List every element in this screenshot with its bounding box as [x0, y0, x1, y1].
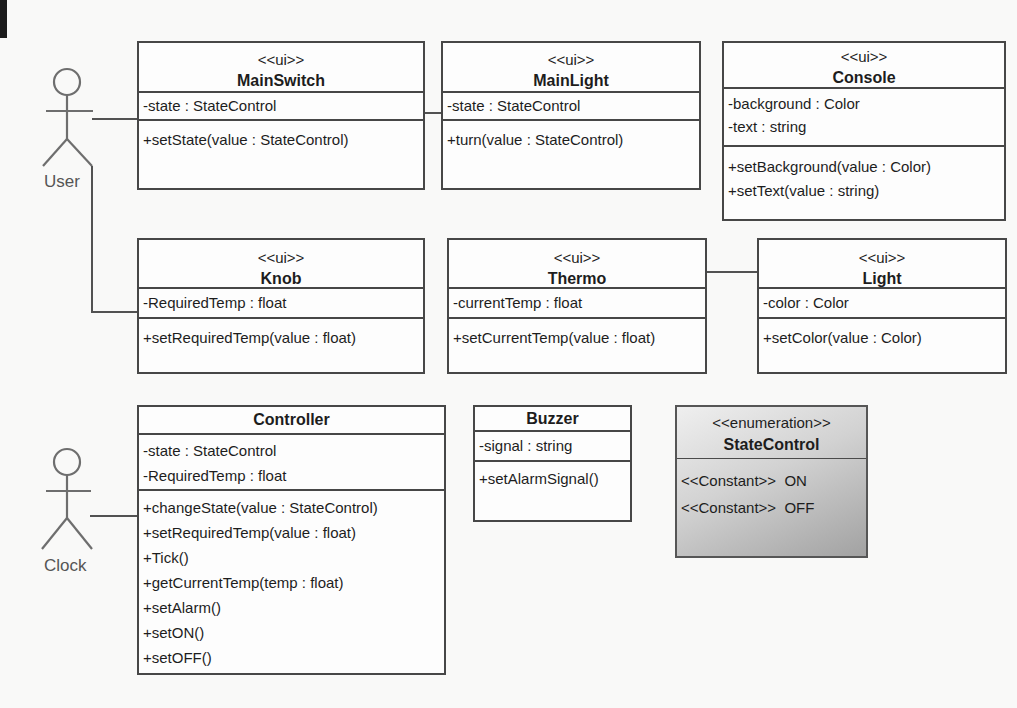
- class-header: <<enumeration>> StateControl: [677, 407, 866, 459]
- stereotype-label: <<ui>>: [443, 49, 699, 70]
- attributes-compartment: -color : Color: [759, 289, 1005, 319]
- class-header: Controller: [139, 407, 444, 435]
- scan-artifact: [0, 0, 7, 38]
- stereotype-label: <<ui>>: [449, 247, 705, 268]
- class-light: <<ui>> Light -color : Color +setColor(va…: [757, 238, 1007, 374]
- class-name: StateControl: [677, 434, 866, 456]
- clock-actor-label: Clock: [44, 556, 87, 576]
- method: +setState(value : StateControl): [139, 127, 423, 153]
- stereotype-label: <<ui>>: [724, 46, 1004, 67]
- attribute: -state : StateControl: [139, 93, 423, 119]
- class-console: <<ui>> Console -background : Color -text…: [722, 41, 1006, 221]
- class-thermo: <<ui>> Thermo -currentTemp : float +setC…: [447, 238, 707, 374]
- methods-compartment: +setColor(value : Color): [759, 319, 1005, 372]
- method: +turn(value : StateControl): [443, 127, 699, 153]
- class-buzzer: Buzzer -signal : string +setAlarmSignal(…: [473, 405, 632, 522]
- class-header: <<ui>> Knob: [139, 240, 423, 289]
- method: +setOFF(): [139, 645, 444, 670]
- attributes-compartment: -state : StateControl: [139, 93, 423, 121]
- methods-compartment: +changeState(value : StateControl) +setR…: [139, 491, 444, 673]
- attributes-compartment: -currentTemp : float: [449, 289, 705, 319]
- method: +setColor(value : Color): [759, 325, 1005, 351]
- methods-compartment: +setState(value : StateControl): [139, 121, 423, 188]
- stereotype-label: <<ui>>: [139, 247, 423, 268]
- attribute: -color : Color: [759, 289, 1005, 317]
- attributes-compartment: -background : Color -text : string: [724, 89, 1004, 147]
- attribute: -RequiredTemp : float: [139, 463, 444, 488]
- stereotype-label: <<enumeration>>: [677, 412, 866, 434]
- methods-compartment: +setCurrentTemp(value : float): [449, 319, 705, 372]
- attributes-compartment: -state : StateControl: [443, 93, 699, 121]
- attribute: -state : StateControl: [443, 93, 699, 119]
- class-name: Controller: [139, 407, 444, 433]
- class-name: Console: [724, 67, 1004, 88]
- class-header: Buzzer: [475, 407, 630, 432]
- attributes-compartment: -state : StateControl -RequiredTemp : fl…: [139, 435, 444, 491]
- constants-compartment: <<Constant>> ON <<Constant>> OFF: [677, 459, 866, 556]
- methods-compartment: +setAlarmSignal(): [475, 462, 630, 520]
- method: +setBackground(value : Color): [724, 155, 1004, 179]
- class-knob: <<ui>> Knob -RequiredTemp : float +setRe…: [137, 238, 425, 374]
- attribute: -state : StateControl: [139, 438, 444, 463]
- class-header: <<ui>> Light: [759, 240, 1005, 289]
- enumeration-statecontrol: <<enumeration>> StateControl <<Constant>…: [675, 405, 868, 558]
- class-name: Knob: [139, 268, 423, 289]
- class-header: <<ui>> MainSwitch: [139, 43, 423, 93]
- class-name: MainSwitch: [139, 70, 423, 91]
- method: +getCurrentTemp(temp : float): [139, 570, 444, 595]
- attributes-compartment: -signal : string: [475, 432, 630, 462]
- attribute: -text : string: [724, 115, 1004, 138]
- class-controller: Controller -state : StateControl -Requir…: [137, 405, 446, 675]
- class-name: Light: [759, 268, 1005, 289]
- method: +setRequiredTemp(value : float): [139, 520, 444, 545]
- class-name: Buzzer: [475, 407, 630, 430]
- method: +changeState(value : StateControl): [139, 495, 444, 520]
- enum-constant: <<Constant>> OFF: [677, 494, 866, 521]
- method: +setCurrentTemp(value : float): [449, 325, 705, 351]
- clock-actor-icon: [42, 449, 92, 549]
- class-name: MainLight: [443, 70, 699, 91]
- class-header: <<ui>> Thermo: [449, 240, 705, 289]
- method: +setRequiredTemp(value : float): [139, 325, 423, 351]
- class-name: Thermo: [449, 268, 705, 289]
- attributes-compartment: -RequiredTemp : float: [139, 289, 423, 319]
- enum-constant: <<Constant>> ON: [677, 467, 866, 494]
- methods-compartment: +turn(value : StateControl): [443, 121, 699, 188]
- attribute: -background : Color: [724, 92, 1004, 115]
- attribute: -RequiredTemp : float: [139, 289, 423, 317]
- class-mainlight: <<ui>> MainLight -state : StateControl +…: [441, 41, 701, 190]
- methods-compartment: +setRequiredTemp(value : float): [139, 319, 423, 372]
- class-header: <<ui>> Console: [724, 43, 1004, 89]
- uml-class-diagram: User Clock <<ui>> MainSwitch -state : St…: [0, 0, 1017, 708]
- methods-compartment: +setBackground(value : Color) +setText(v…: [724, 147, 1004, 219]
- user-actor-icon: [43, 69, 93, 166]
- class-header: <<ui>> MainLight: [443, 43, 699, 93]
- method: +Tick(): [139, 545, 444, 570]
- method: +setON(): [139, 620, 444, 645]
- user-actor-label: User: [44, 172, 80, 192]
- stereotype-label: <<ui>>: [139, 49, 423, 70]
- method: +setAlarm(): [139, 595, 444, 620]
- attribute: -signal : string: [475, 432, 630, 460]
- association-user-knob: [92, 166, 138, 312]
- stereotype-label: <<ui>>: [759, 247, 1005, 268]
- method: +setAlarmSignal(): [475, 466, 630, 492]
- attribute: -currentTemp : float: [449, 289, 705, 317]
- class-mainswitch: <<ui>> MainSwitch -state : StateControl …: [137, 41, 425, 190]
- method: +setText(value : string): [724, 179, 1004, 203]
